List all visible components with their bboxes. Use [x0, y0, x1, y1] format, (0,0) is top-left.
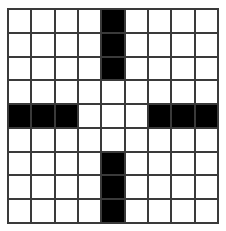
white-cell[interactable] [126, 58, 147, 80]
white-cell[interactable] [56, 176, 77, 198]
white-cell[interactable] [149, 10, 170, 32]
white-cell[interactable] [172, 34, 193, 56]
white-cell[interactable] [196, 200, 217, 222]
white-cell[interactable] [56, 10, 77, 32]
white-cell[interactable] [79, 153, 100, 175]
white-cell[interactable] [56, 34, 77, 56]
black-cell [56, 105, 77, 127]
white-cell[interactable] [102, 105, 123, 127]
white-cell[interactable] [149, 34, 170, 56]
white-cell[interactable] [149, 200, 170, 222]
white-cell[interactable] [196, 81, 217, 103]
white-cell[interactable] [79, 176, 100, 198]
black-cell [102, 58, 123, 80]
white-cell[interactable] [32, 58, 53, 80]
black-cell [102, 176, 123, 198]
black-cell [102, 200, 123, 222]
white-cell[interactable] [79, 81, 100, 103]
white-cell[interactable] [172, 200, 193, 222]
white-cell[interactable] [126, 129, 147, 151]
white-cell[interactable] [196, 34, 217, 56]
white-cell[interactable] [196, 58, 217, 80]
black-cell [32, 105, 53, 127]
white-cell[interactable] [126, 105, 147, 127]
black-cell [196, 105, 217, 127]
white-cell[interactable] [9, 176, 30, 198]
white-cell[interactable] [172, 81, 193, 103]
white-cell[interactable] [126, 81, 147, 103]
white-cell[interactable] [32, 129, 53, 151]
white-cell[interactable] [9, 58, 30, 80]
white-cell[interactable] [126, 10, 147, 32]
white-cell[interactable] [172, 10, 193, 32]
white-cell[interactable] [9, 34, 30, 56]
black-cell [172, 105, 193, 127]
white-cell[interactable] [102, 81, 123, 103]
white-cell[interactable] [79, 129, 100, 151]
white-cell[interactable] [126, 34, 147, 56]
white-cell[interactable] [9, 129, 30, 151]
white-cell[interactable] [56, 81, 77, 103]
white-cell[interactable] [9, 153, 30, 175]
white-cell[interactable] [196, 176, 217, 198]
white-cell[interactable] [196, 153, 217, 175]
white-cell[interactable] [56, 153, 77, 175]
black-cell [149, 105, 170, 127]
white-cell[interactable] [126, 153, 147, 175]
white-cell[interactable] [149, 176, 170, 198]
white-cell[interactable] [102, 129, 123, 151]
white-cell[interactable] [32, 200, 53, 222]
white-cell[interactable] [32, 34, 53, 56]
white-cell[interactable] [9, 10, 30, 32]
white-cell[interactable] [32, 153, 53, 175]
white-cell[interactable] [126, 200, 147, 222]
white-cell[interactable] [149, 153, 170, 175]
white-cell[interactable] [172, 176, 193, 198]
white-cell[interactable] [79, 200, 100, 222]
white-cell[interactable] [79, 58, 100, 80]
white-cell[interactable] [9, 200, 30, 222]
white-cell[interactable] [149, 129, 170, 151]
white-cell[interactable] [79, 10, 100, 32]
white-cell[interactable] [32, 81, 53, 103]
black-cell [102, 34, 123, 56]
black-cell [9, 105, 30, 127]
crossword-grid [7, 8, 219, 224]
white-cell[interactable] [149, 58, 170, 80]
white-cell[interactable] [79, 105, 100, 127]
white-cell[interactable] [196, 129, 217, 151]
white-cell[interactable] [56, 200, 77, 222]
white-cell[interactable] [172, 153, 193, 175]
white-cell[interactable] [79, 34, 100, 56]
white-cell[interactable] [172, 58, 193, 80]
white-cell[interactable] [126, 176, 147, 198]
white-cell[interactable] [9, 81, 30, 103]
black-cell [102, 10, 123, 32]
white-cell[interactable] [32, 176, 53, 198]
black-cell [102, 153, 123, 175]
white-cell[interactable] [172, 129, 193, 151]
white-cell[interactable] [149, 81, 170, 103]
white-cell[interactable] [56, 58, 77, 80]
white-cell[interactable] [32, 10, 53, 32]
white-cell[interactable] [196, 10, 217, 32]
white-cell[interactable] [56, 129, 77, 151]
